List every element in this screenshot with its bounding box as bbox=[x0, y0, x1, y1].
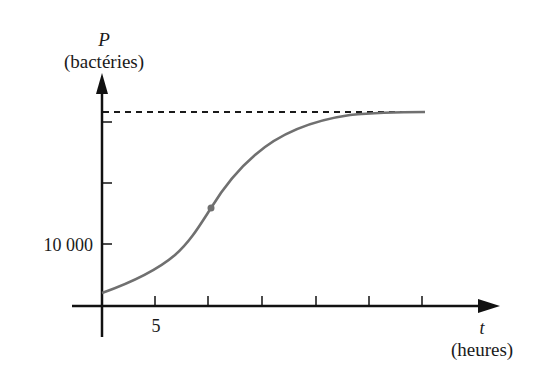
y-axis-unit-label: (bactéries) bbox=[64, 51, 144, 73]
y-axis-variable-label: P bbox=[97, 29, 110, 50]
logistic-growth-chart: P (bactéries) 10 000 5 t (heures) bbox=[0, 0, 544, 382]
x-axis-unit-label: (heures) bbox=[451, 339, 513, 361]
y-ticks bbox=[102, 122, 112, 244]
x-tick-label-5: 5 bbox=[152, 316, 161, 336]
x-ticks bbox=[155, 296, 422, 306]
inflection-point-marker bbox=[208, 205, 215, 212]
population-curve bbox=[102, 112, 425, 293]
y-axis-arrow-icon bbox=[96, 73, 108, 94]
x-axis-arrow-icon bbox=[478, 299, 500, 313]
y-tick-label-10000: 10 000 bbox=[44, 235, 94, 255]
x-axis-variable-label: t bbox=[479, 318, 485, 338]
